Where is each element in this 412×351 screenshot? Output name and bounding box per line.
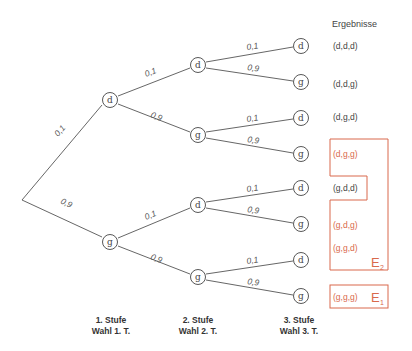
tree-node: g bbox=[294, 147, 309, 162]
probability-tree-diagram: 0,1 0,9 0,1 0,9 0,1 0,9 0,1 0,9 0,1 0,9 … bbox=[0, 0, 412, 351]
tree-node: g bbox=[191, 128, 206, 143]
prob-label: 0,9 bbox=[247, 276, 261, 288]
result-item: (g,g,d) bbox=[333, 243, 358, 253]
prob-label: 0,9 bbox=[247, 134, 261, 146]
prob-label: 0,9 bbox=[247, 62, 260, 74]
tree-node: g bbox=[294, 75, 309, 90]
tree-node: g bbox=[294, 217, 309, 232]
prob-label: 0,1 bbox=[246, 182, 260, 194]
results-header: Ergebnisse bbox=[332, 19, 377, 29]
prob-label: 0,1 bbox=[246, 112, 260, 124]
tree-node: d bbox=[103, 93, 118, 108]
stage-labels: 1. Stufe Wahl 1. T. 2. Stufe Wahl 2. T. … bbox=[92, 315, 318, 336]
edges-level2 bbox=[118, 68, 190, 274]
prob-label: 0,1 bbox=[143, 208, 158, 222]
tree-node: d bbox=[294, 111, 309, 126]
tree-node: d bbox=[294, 181, 309, 196]
node-label: d bbox=[298, 183, 304, 193]
tree-node: d bbox=[191, 58, 206, 73]
tree-node: d bbox=[191, 198, 206, 213]
probability-labels: 0,1 0,9 0,1 0,9 0,1 0,9 0,1 0,9 0,1 0,9 … bbox=[52, 40, 260, 288]
stage-2-line1: 2. Stufe bbox=[183, 315, 214, 325]
event-e2-subscript: 2 bbox=[380, 264, 384, 271]
result-item: (d,d,d) bbox=[333, 41, 358, 51]
node-label: g bbox=[195, 272, 201, 282]
node-label: g bbox=[298, 219, 304, 229]
node-label: g bbox=[298, 77, 304, 87]
result-item: (d,g,d) bbox=[333, 112, 358, 122]
nodes-level2: d g d g bbox=[191, 58, 206, 285]
tree-node: g bbox=[191, 270, 206, 285]
event-e1-subscript: 1 bbox=[380, 299, 384, 306]
result-item: (g,g,g) bbox=[333, 292, 358, 302]
stage-1-line1: 1. Stufe bbox=[96, 315, 127, 325]
node-label: g bbox=[195, 130, 201, 140]
prob-label: 0,9 bbox=[247, 204, 261, 216]
node-label: d bbox=[298, 255, 304, 265]
result-item: (g,d,d) bbox=[333, 183, 358, 193]
prob-label: 0,1 bbox=[246, 254, 260, 266]
tree-node: g bbox=[294, 289, 309, 304]
results-list: (d,d,d) (d,d,g) (d,g,d) (d,g,g) (g,d,d) … bbox=[333, 41, 358, 302]
stage-1-line2: Wahl 1. T. bbox=[92, 326, 130, 336]
tree-node: g bbox=[103, 235, 118, 250]
event-e1-label: E bbox=[371, 290, 380, 305]
node-label: d bbox=[298, 41, 304, 51]
result-item: (d,g,g) bbox=[333, 149, 358, 159]
result-item: (d,d,g) bbox=[333, 79, 358, 89]
result-item: (g,d,g) bbox=[333, 220, 358, 230]
stage-2-line2: Wahl 2. T. bbox=[179, 326, 217, 336]
event-e2-label: E bbox=[371, 255, 380, 270]
node-label: d bbox=[298, 113, 304, 123]
prob-label: 0,1 bbox=[246, 40, 260, 52]
stage-3-line1: 3. Stufe bbox=[284, 315, 315, 325]
nodes-level3: d g d g d g d g bbox=[294, 39, 309, 304]
tree-node: d bbox=[294, 39, 309, 54]
stage-3-line2: Wahl 3. T. bbox=[280, 326, 318, 336]
edge-root-d bbox=[22, 105, 102, 200]
node-label: g bbox=[298, 149, 304, 159]
prob-label: 0,9 bbox=[59, 196, 74, 210]
node-label: d bbox=[195, 200, 201, 210]
node-label: d bbox=[195, 60, 201, 70]
tree-node: d bbox=[294, 253, 309, 268]
nodes-level1: d g bbox=[103, 93, 118, 250]
prob-label: 0,1 bbox=[52, 123, 68, 139]
node-label: g bbox=[298, 291, 304, 301]
node-label: d bbox=[107, 95, 113, 105]
node-label: g bbox=[107, 237, 113, 247]
prob-label: 0,1 bbox=[143, 65, 158, 79]
